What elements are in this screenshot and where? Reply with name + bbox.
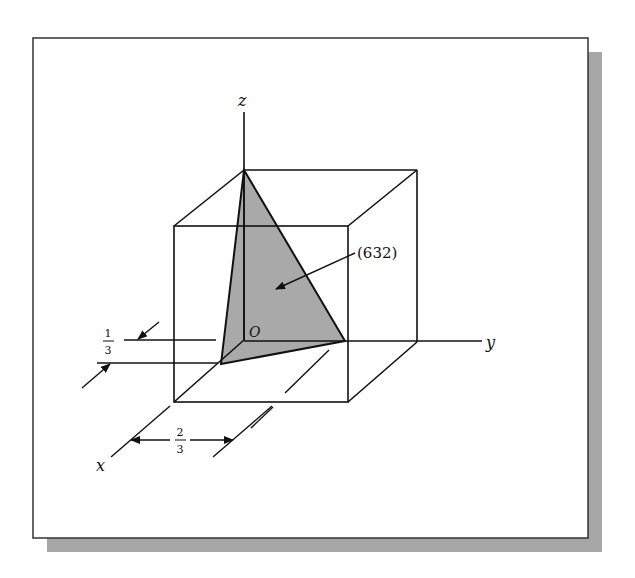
plane-label: (632) (357, 244, 397, 262)
origin-label: O (249, 324, 261, 340)
x-axis-label: x (96, 456, 105, 475)
fraction-x-denominator: 3 (105, 344, 112, 357)
z-axis-label: z (237, 91, 247, 110)
fraction-y-denominator: 3 (177, 443, 184, 456)
fraction-x-numerator: 1 (105, 327, 112, 340)
y-axis-label: y (485, 333, 496, 352)
fraction-y-numerator: 2 (177, 426, 184, 439)
crystal-plane-diagram: z y x O (632) 1 3 2 3 (0, 0, 635, 578)
